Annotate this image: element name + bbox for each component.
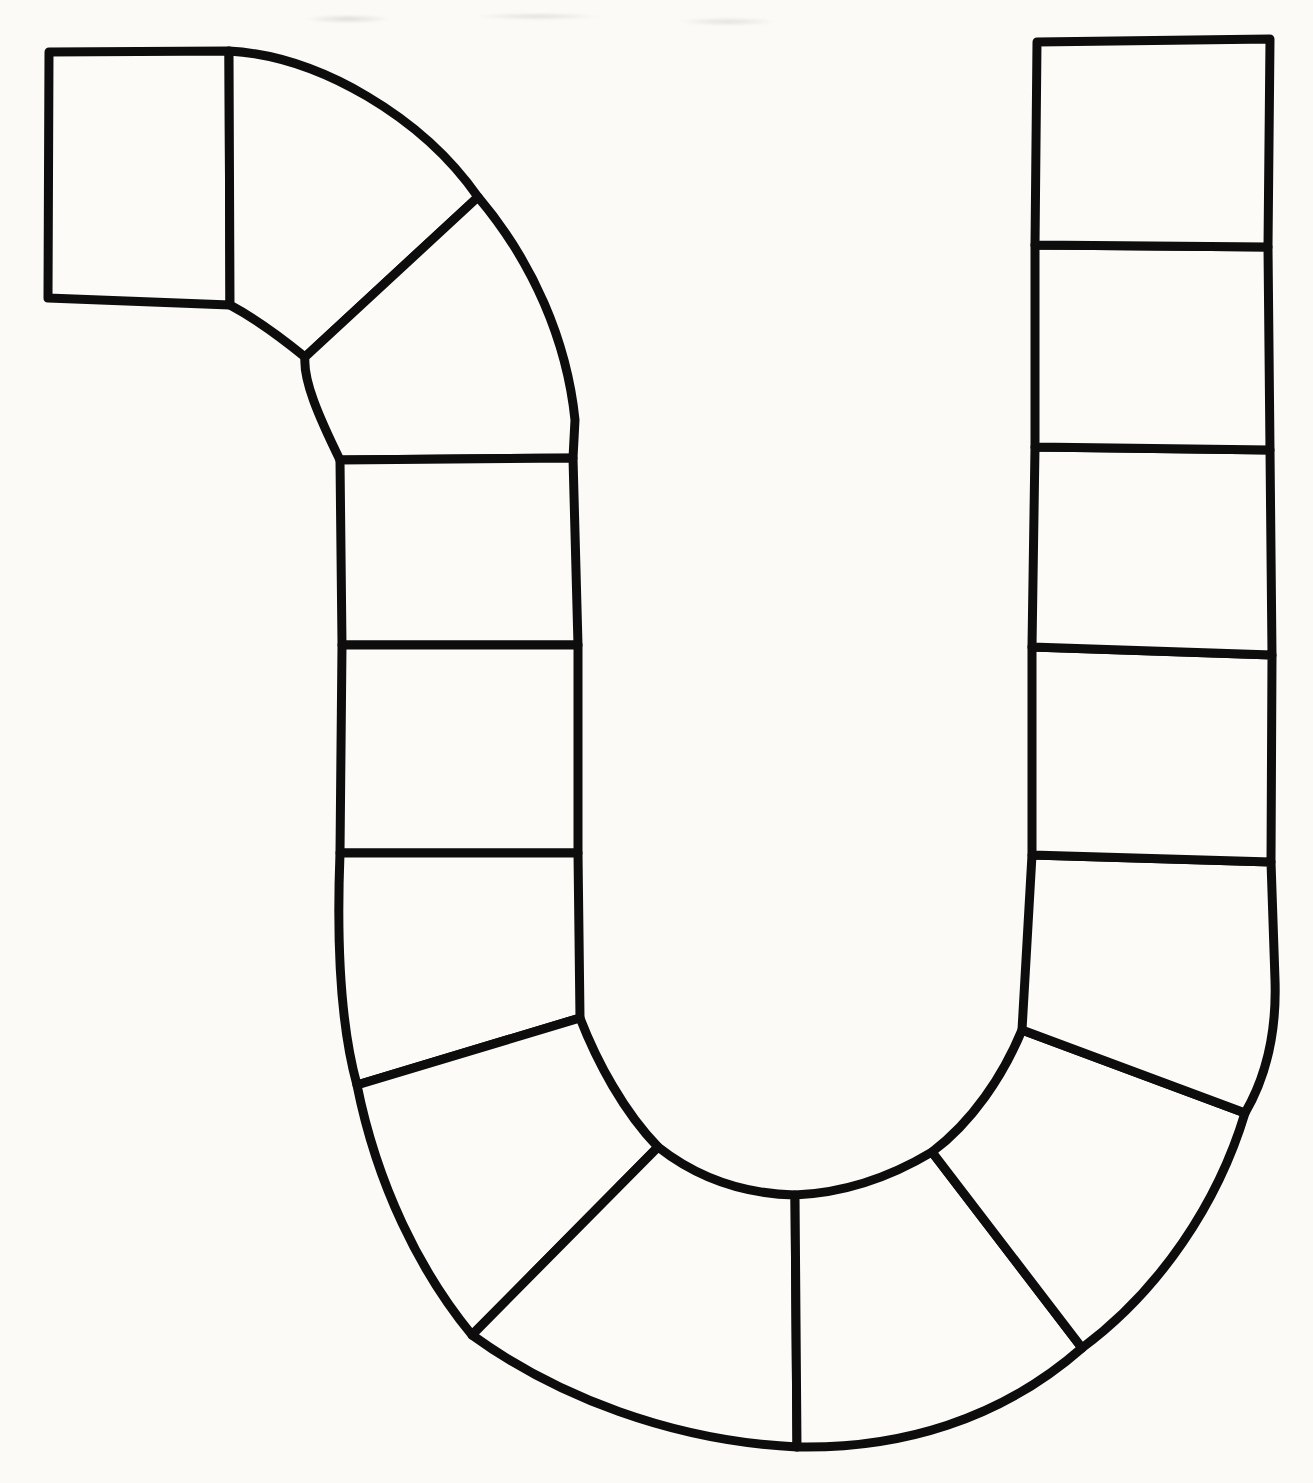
board-cell-right-col-3	[1032, 447, 1272, 655]
scanned-page	[0, 0, 1313, 1483]
board-cell-left-col-2	[340, 645, 578, 853]
board-cell-start-square	[48, 51, 230, 305]
board-cell-left-col-1	[340, 458, 578, 645]
game-board	[0, 0, 1313, 1483]
board-cell-right-col-4	[1032, 647, 1272, 862]
board-cell-right-col-2	[1035, 245, 1270, 450]
board-cell-right-col-1	[1035, 39, 1270, 247]
